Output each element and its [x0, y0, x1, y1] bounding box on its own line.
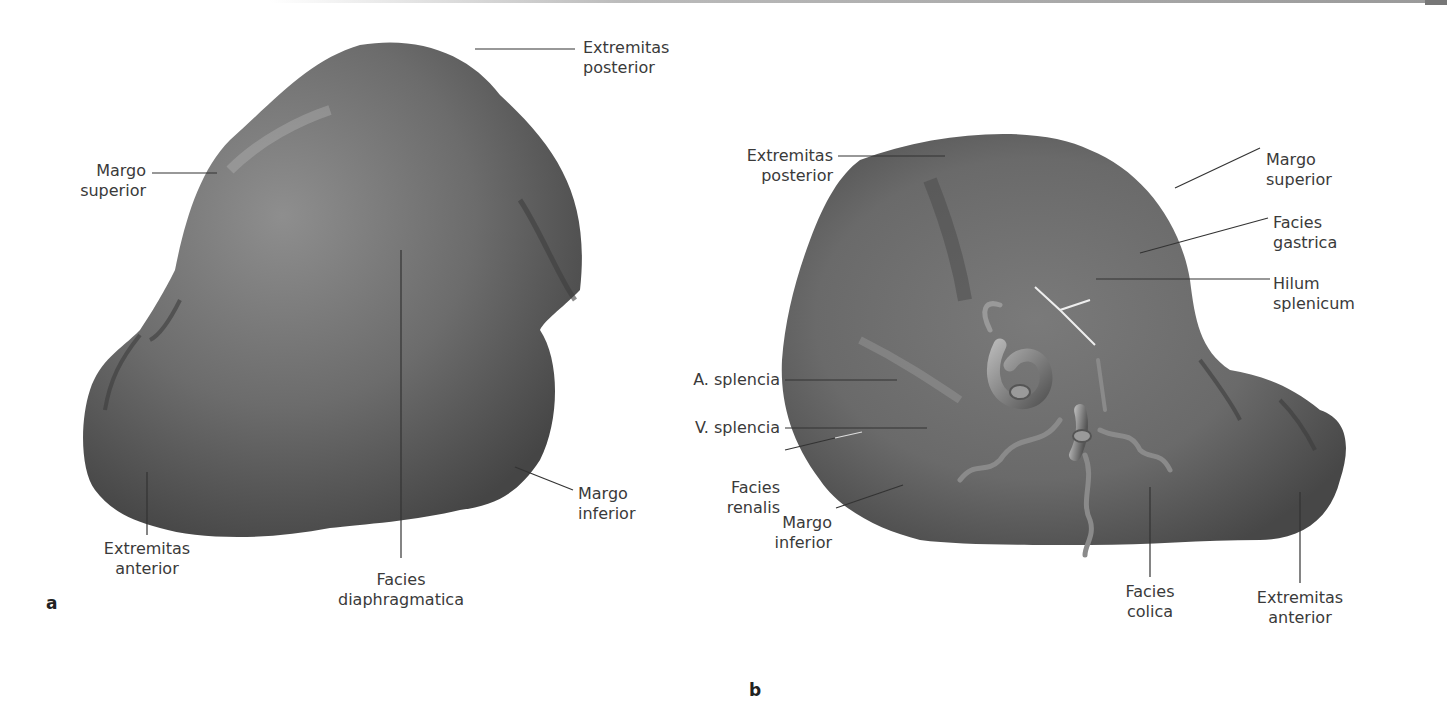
label-line: posterior [715, 166, 833, 186]
label-line: colica [1110, 602, 1190, 622]
label-b-facies-colica: Facies colica [1110, 582, 1190, 622]
label-line: Facies [1110, 582, 1190, 602]
label-a-extremitas-anterior: Extremitas anterior [92, 539, 202, 579]
label-b-extremitas-anterior: Extremitas anterior [1245, 588, 1355, 628]
label-b-v-splencia: V. splencia [650, 418, 780, 438]
label-line: superior [60, 181, 146, 201]
label-b-hilum-splenicum: Hilum splenicum [1273, 274, 1355, 314]
label-line: Extremitas [1245, 588, 1355, 608]
label-line: Extremitas [715, 146, 833, 166]
panel-letter-b: b [749, 680, 761, 700]
label-line: inferior [740, 533, 832, 553]
label-line: V. splencia [650, 418, 780, 438]
label-a-facies-diaphragmatica: Facies diaphragmatica [326, 570, 476, 610]
label-a-margo-inferior: Margo inferior [578, 484, 635, 524]
label-line: anterior [92, 559, 202, 579]
spleen-a-shape [83, 42, 582, 537]
label-line: splenicum [1273, 294, 1355, 314]
label-line: Margo [578, 484, 635, 504]
label-a-extremitas-posterior: Extremitas posterior [583, 38, 669, 78]
label-a-margo-superior: Margo superior [60, 161, 146, 201]
label-line: anterior [1245, 608, 1355, 628]
label-b-margo-superior: Margo superior [1266, 150, 1332, 190]
label-line: posterior [583, 58, 669, 78]
label-line: diaphragmatica [326, 590, 476, 610]
panel-letter-a: a [46, 593, 57, 613]
label-line: inferior [578, 504, 635, 524]
label-line: Facies [326, 570, 476, 590]
label-line: Facies [1273, 213, 1337, 233]
spleen-b-shape [782, 134, 1346, 555]
label-line: Hilum [1273, 274, 1355, 294]
label-b-extremitas-posterior: Extremitas posterior [715, 146, 833, 186]
label-b-facies-gastrica: Facies gastrica [1273, 213, 1337, 253]
label-b-a-splencia: A. splencia [650, 370, 780, 390]
label-line: gastrica [1273, 233, 1337, 253]
label-b-facies-renalis: Facies renalis [700, 478, 780, 518]
label-line: A. splencia [650, 370, 780, 390]
label-line: Extremitas [583, 38, 669, 58]
label-line: Extremitas [92, 539, 202, 559]
label-line: superior [1266, 170, 1332, 190]
label-line: Margo [60, 161, 146, 181]
label-line: Margo [740, 513, 832, 533]
label-line: Margo [1266, 150, 1332, 170]
label-line: Facies [700, 478, 780, 498]
spleen-illustration [0, 0, 1447, 725]
label-b-margo-inferior: Margo inferior [740, 513, 832, 553]
